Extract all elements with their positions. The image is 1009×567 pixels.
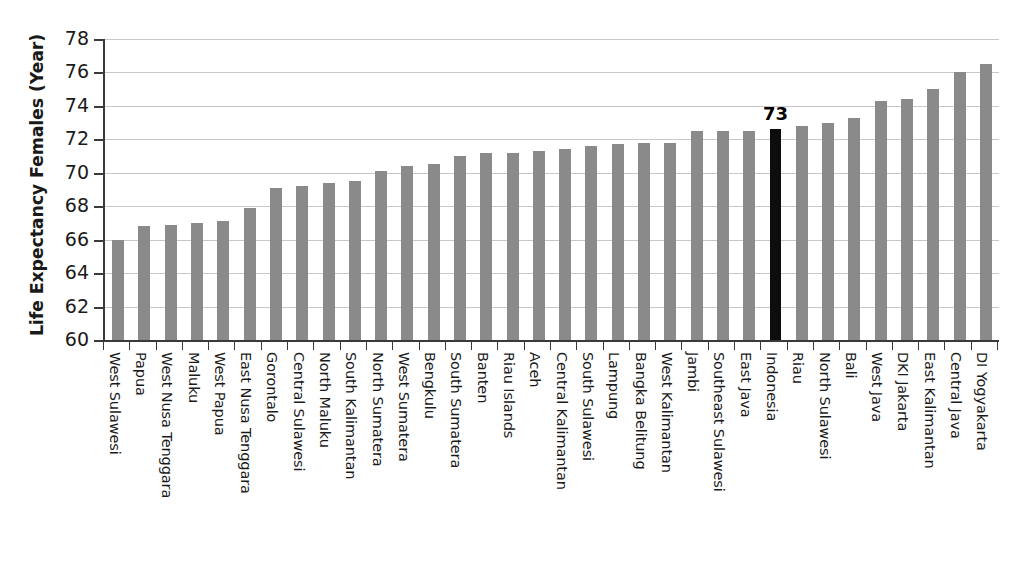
x-axis-label: Jambi (686, 352, 701, 392)
x-axis-tick (497, 341, 498, 350)
x-axis-label: West Papua (212, 352, 227, 436)
y-axis-tick-label: 78 (55, 29, 89, 48)
x-axis-label: Aceh (528, 352, 543, 387)
x-axis-label: Maluku (186, 352, 201, 403)
x-axis-tick (261, 341, 262, 350)
x-axis-tick (287, 341, 288, 350)
x-axis-tick (787, 341, 788, 350)
bar (717, 131, 729, 340)
x-axis-tick (734, 341, 735, 350)
x-axis-label: Lampung (607, 352, 622, 419)
gridline (105, 240, 999, 241)
x-axis-tick (944, 341, 945, 350)
x-axis-label: Papua (133, 352, 148, 396)
x-axis-tick (129, 341, 130, 350)
y-axis-title: Life Expectancy Females (Year) (27, 20, 47, 350)
y-axis-tick (94, 340, 103, 342)
gridline (105, 39, 999, 40)
x-axis-label: Bali (843, 352, 858, 379)
bar (428, 164, 440, 340)
x-axis-tick (313, 341, 314, 350)
bar (323, 183, 335, 340)
x-axis-label: DI Yogyakarta (975, 352, 990, 451)
bar (743, 131, 755, 340)
y-axis-tick-label: 70 (55, 163, 89, 182)
y-axis-tick-label: 60 (55, 330, 89, 349)
bar (349, 181, 361, 340)
bar (454, 156, 466, 340)
x-axis-label: West Nusa Tenggara (160, 352, 175, 498)
y-axis-tick (94, 273, 103, 275)
x-axis-label: East Nusa Tenggara (239, 352, 254, 494)
x-axis-label: North Sumatera (370, 352, 385, 467)
x-axis-tick (971, 341, 972, 350)
bar (875, 101, 887, 340)
x-axis-tick (445, 341, 446, 350)
y-axis-tick (94, 240, 103, 242)
x-axis-tick (392, 341, 393, 350)
x-axis-label: East Java (738, 352, 753, 418)
x-axis-label: South Sulawesi (580, 352, 595, 461)
y-axis-tick (94, 139, 103, 141)
bar (664, 143, 676, 340)
x-axis-tick (708, 341, 709, 350)
y-axis-tick-label: 76 (55, 62, 89, 81)
bar (585, 146, 597, 340)
bar (138, 226, 150, 340)
x-axis-tick (550, 341, 551, 350)
x-axis-tick (156, 341, 157, 350)
x-axis-tick (681, 341, 682, 350)
x-axis-tick (629, 341, 630, 350)
bar (848, 118, 860, 340)
x-axis-tick (839, 341, 840, 350)
bar (822, 123, 834, 340)
x-axis-label: Southeast Sulawesi (712, 352, 727, 492)
x-axis-label: West Java (870, 352, 885, 422)
bar (612, 144, 624, 340)
y-axis-tick (94, 72, 103, 74)
y-axis-tick (94, 206, 103, 208)
bar (927, 89, 939, 340)
x-axis-tick (524, 341, 525, 350)
bar (559, 149, 571, 340)
x-axis-label: East Kalimantan (922, 352, 937, 469)
x-axis-tick (760, 341, 761, 350)
x-axis-tick (366, 341, 367, 350)
x-axis-label: Central Java (949, 352, 964, 439)
y-axis-tick-label: 64 (55, 263, 89, 282)
x-axis-tick (234, 341, 235, 350)
x-axis-tick (340, 341, 341, 350)
y-axis-tick-label: 74 (55, 96, 89, 115)
y-axis-tick-label: 68 (55, 196, 89, 215)
x-axis-tick (419, 341, 420, 350)
y-axis-tick (94, 39, 103, 41)
x-axis-label: West Kalimantan (659, 352, 674, 473)
gridline (105, 206, 999, 207)
bar-highlighted (770, 129, 781, 340)
x-axis-label: North Sulawesi (817, 352, 832, 459)
bar (401, 166, 413, 340)
gridline (105, 173, 999, 174)
bar (638, 143, 650, 340)
bar (270, 188, 282, 340)
x-axis-label: South Sumatera (449, 352, 464, 468)
x-axis-label: DKI Jakarta (896, 352, 911, 431)
y-axis-tick-label: 72 (55, 129, 89, 148)
bar (533, 151, 545, 340)
x-axis-label: Bangka Belitung (633, 352, 648, 470)
gridline (105, 72, 999, 73)
bar (165, 225, 177, 340)
x-axis-label: West Sulawesi (107, 352, 122, 455)
x-axis-tick (813, 341, 814, 350)
bar (480, 153, 492, 340)
x-axis-label: South Kalimantan (344, 352, 359, 479)
y-axis-tick (94, 106, 103, 108)
y-axis-tick (94, 173, 103, 175)
bar (217, 221, 229, 340)
x-axis-tick (182, 341, 183, 350)
x-axis-tick (603, 341, 604, 350)
x-axis-tick (997, 341, 998, 350)
x-axis-tick (892, 341, 893, 350)
x-axis-label: Riau (791, 352, 806, 384)
x-axis-label: West Sumatera (396, 352, 411, 462)
